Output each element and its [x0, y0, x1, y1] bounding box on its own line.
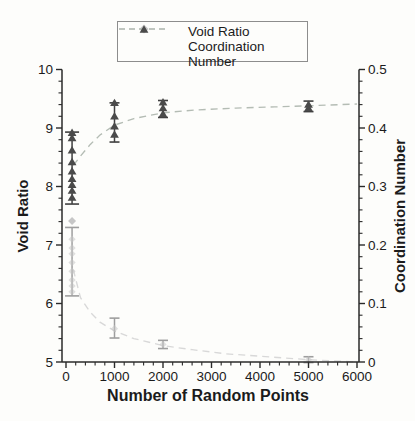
coordination-number-series	[65, 98, 313, 204]
svg-text:8: 8	[45, 179, 53, 194]
legend-label-coordination-number: Coordination Number	[188, 39, 305, 69]
svg-text:7: 7	[45, 238, 53, 253]
svg-text:6: 6	[45, 296, 53, 311]
svg-text:9: 9	[45, 121, 53, 136]
x-axis-title: Number of Random Points	[107, 387, 309, 405]
y-axis-right-title: Coordination Number	[391, 139, 408, 293]
figure: 567891000.10.20.30.40.501000200030004000…	[0, 0, 415, 421]
legend-item-coordination-number: Coordination Number	[127, 39, 305, 69]
svg-text:4000: 4000	[245, 369, 275, 384]
legend: Void Ratio Coordination Number	[117, 21, 308, 62]
svg-text:0.2: 0.2	[368, 238, 387, 253]
y-axis-right: 00.10.20.30.40.5	[359, 62, 387, 370]
svg-text:0.5: 0.5	[368, 62, 387, 77]
y-axis-left-title: Void Ratio	[14, 179, 31, 252]
legend-label-void-ratio: Void Ratio	[188, 24, 250, 39]
svg-text:6000: 6000	[342, 369, 372, 384]
svg-text:0: 0	[62, 369, 70, 384]
y-axis-left: 5678910	[38, 62, 62, 370]
void-ratio-series	[65, 217, 313, 363]
svg-text:1000: 1000	[99, 369, 129, 384]
axes	[62, 70, 359, 363]
svg-text:0: 0	[368, 355, 376, 370]
svg-text:5: 5	[45, 355, 53, 370]
svg-text:2000: 2000	[148, 369, 178, 384]
svg-text:0.1: 0.1	[368, 296, 387, 311]
svg-text:0.3: 0.3	[368, 179, 387, 194]
svg-text:5000: 5000	[293, 369, 323, 384]
x-axis: 0100020003000400050006000	[62, 362, 372, 384]
coordination-number-marker-icon	[127, 47, 179, 61]
svg-text:3000: 3000	[196, 369, 226, 384]
svg-text:0.4: 0.4	[368, 121, 387, 136]
svg-text:10: 10	[38, 62, 53, 77]
